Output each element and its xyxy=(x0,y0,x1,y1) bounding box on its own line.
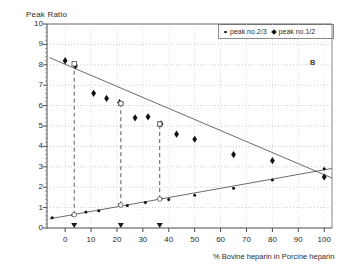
x-tick-label: 90 xyxy=(288,235,308,244)
x-tick-label: 30 xyxy=(133,235,153,244)
x-tick-label: 50 xyxy=(185,235,205,244)
x-tick-label: 60 xyxy=(211,235,231,244)
x-tick-label: 10 xyxy=(81,235,101,244)
x-tick-label: 20 xyxy=(107,235,127,244)
y-tick-label: 5 xyxy=(31,121,43,130)
x-tick-label: 80 xyxy=(262,235,282,244)
chart-plot-area xyxy=(0,0,344,269)
y-tick-label: 2 xyxy=(31,182,43,191)
y-tick-label: 1 xyxy=(31,203,43,212)
x-tick-label: 40 xyxy=(159,235,179,244)
x-tick-label: 100 xyxy=(314,235,334,244)
y-tick-label: 10 xyxy=(31,19,43,28)
chart-container: Peak Ratio % Bovine heparin in Porcine h… xyxy=(0,0,344,269)
y-tick-label: 6 xyxy=(31,101,43,110)
x-tick-label: 70 xyxy=(237,235,257,244)
y-tick-label: 0 xyxy=(31,223,43,232)
y-tick-label: 4 xyxy=(31,141,43,150)
y-tick-label: 9 xyxy=(31,39,43,48)
y-tick-label: 7 xyxy=(31,80,43,89)
x-tick-label: 0 xyxy=(55,235,75,244)
y-tick-label: 3 xyxy=(31,162,43,171)
y-tick-label: 8 xyxy=(31,60,43,69)
